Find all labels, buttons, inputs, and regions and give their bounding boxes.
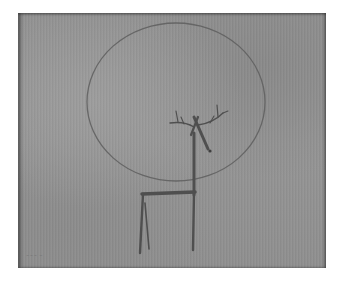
painting-canvas: ~~~ ~	[18, 13, 326, 268]
circle-outline	[87, 23, 265, 181]
artist-signature: ~~~ ~	[26, 253, 43, 258]
painting-drawing	[18, 13, 326, 268]
